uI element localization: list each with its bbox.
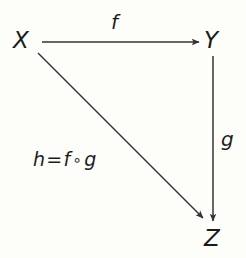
arrow-label-f: f [111, 12, 118, 32]
node-label-x: X [13, 29, 29, 52]
arrow-label-h-first: f [64, 148, 71, 170]
arrow-label-h-second: g [84, 148, 96, 170]
node-label-y: Y [204, 29, 218, 52]
arrow-label-h: h=f∘g [33, 150, 97, 169]
composition-operator-icon: ∘ [71, 151, 85, 169]
arrow-label-h-lhs: h [33, 148, 45, 170]
equals-sign: = [45, 148, 63, 170]
arrow-h-line [38, 53, 203, 218]
arrow-label-g: g [221, 129, 234, 149]
node-label-z: Z [204, 227, 220, 250]
commutative-diagram: X Y Z f g h=f∘g [0, 0, 246, 258]
